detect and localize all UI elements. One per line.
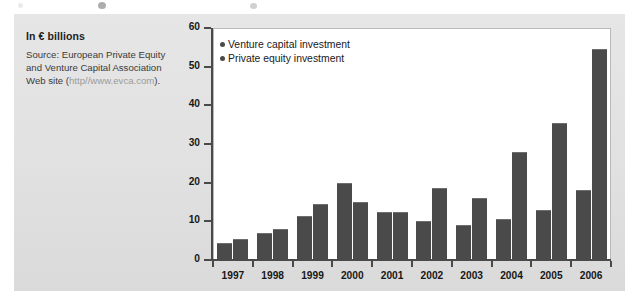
- x-tick-mark: [570, 261, 572, 267]
- x-tick-label: 2006: [569, 270, 613, 281]
- y-tick-mark: [204, 143, 211, 145]
- x-tick-label: 2003: [450, 270, 494, 281]
- chart-screenshot: In € billions Source: European Private E…: [0, 0, 639, 302]
- y-tick-label: 10: [176, 214, 200, 225]
- y-tick-mark: [204, 259, 211, 261]
- bar: [536, 210, 551, 260]
- legend-item-private-equity[interactable]: Private equity investment: [220, 52, 350, 65]
- bar: [576, 190, 591, 260]
- caption-title: In € billions: [26, 30, 186, 43]
- y-tick-label: 30: [176, 137, 200, 148]
- bar: [313, 204, 328, 260]
- source-url-link[interactable]: http//www.evca.com: [69, 75, 154, 86]
- y-tick-label: 40: [176, 98, 200, 109]
- bar: [472, 198, 487, 260]
- bar: [432, 188, 447, 260]
- caption-source: Source: European Private Equity and Vent…: [26, 48, 186, 88]
- y-tick-mark: [204, 220, 211, 222]
- source-line-3-prefix: Web site (: [26, 75, 69, 86]
- legend-label: Private equity investment: [228, 52, 344, 65]
- x-tick-mark: [411, 261, 413, 267]
- y-tick-mark: [204, 182, 211, 184]
- x-tick-label: 2002: [410, 270, 454, 281]
- bar: [297, 216, 312, 260]
- y-tick-label: 50: [176, 60, 200, 71]
- source-line-3-suffix: ).: [154, 75, 160, 86]
- y-tick-mark: [204, 66, 211, 68]
- scan-artifact: [250, 3, 257, 9]
- bar: [512, 152, 527, 260]
- y-tick-label: 60: [176, 21, 200, 32]
- y-tick-mark: [204, 27, 211, 29]
- scan-artifact: [98, 2, 106, 9]
- bar: [273, 229, 288, 260]
- source-line-1: Source: European Private Equity: [26, 49, 165, 60]
- x-tick-mark: [451, 261, 453, 267]
- x-tick-label: 1997: [211, 270, 255, 281]
- x-tick-label: 2001: [370, 270, 414, 281]
- legend-bullet-icon: [220, 56, 225, 61]
- x-tick-label: 2000: [330, 270, 374, 281]
- bar: [393, 212, 408, 260]
- bar: [337, 183, 352, 260]
- x-tick-mark: [252, 261, 254, 267]
- x-tick-mark: [331, 261, 333, 267]
- bar: [456, 225, 471, 260]
- bar: [257, 233, 272, 260]
- y-axis-line: [211, 28, 213, 261]
- bar: [416, 221, 431, 260]
- bar: [496, 219, 511, 260]
- bar: [377, 212, 392, 260]
- legend-label: Venture capital investment: [228, 38, 350, 51]
- source-line-2: and Venture Capital Association: [26, 62, 161, 73]
- x-tick-label: 1999: [291, 270, 335, 281]
- y-tick-mark: [204, 104, 211, 106]
- x-tick-mark: [212, 261, 214, 267]
- caption-block: In € billions Source: European Private E…: [26, 30, 186, 88]
- bar: [592, 49, 607, 260]
- bar: [233, 239, 248, 260]
- legend: Venture capital investment Private equit…: [220, 38, 350, 66]
- bar: [353, 202, 368, 260]
- x-tick-mark: [371, 261, 373, 267]
- x-tick-mark: [610, 261, 612, 267]
- legend-bullet-icon: [220, 42, 225, 47]
- bar: [552, 123, 567, 260]
- legend-item-venture-capital[interactable]: Venture capital investment: [220, 38, 350, 51]
- x-tick-label: 2005: [529, 270, 573, 281]
- x-tick-mark: [530, 261, 532, 267]
- scan-artifact: [18, 3, 23, 8]
- x-tick-mark: [491, 261, 493, 267]
- x-tick-mark: [292, 261, 294, 267]
- y-tick-label: 20: [176, 176, 200, 187]
- x-tick-label: 1998: [251, 270, 295, 281]
- x-tick-label: 2004: [490, 270, 534, 281]
- bar: [217, 243, 232, 260]
- y-tick-label: 0: [176, 253, 200, 264]
